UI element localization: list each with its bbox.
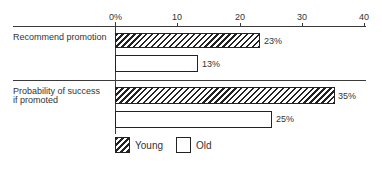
x-axis-line [13, 26, 366, 27]
value-label-old-recommend: 13% [202, 59, 220, 69]
x-tick-10 [177, 23, 178, 27]
x-tick-40 [364, 23, 365, 27]
category-label-probability-success-line2: if promoted [13, 95, 58, 105]
x-tick-label-30: 30 [297, 12, 307, 22]
legend-label-old: Old [196, 141, 212, 151]
bar-young-probability [115, 87, 335, 104]
value-label-young-probability: 35% [338, 91, 356, 101]
x-tick-label-40: 40 [359, 12, 369, 22]
value-label-young-recommend: 23% [264, 36, 282, 46]
plot-bottom-line [115, 133, 275, 134]
legend-swatch-young [115, 137, 130, 153]
x-tick-20 [240, 23, 241, 27]
bar-old-recommend [115, 55, 198, 72]
x-tick-label-20: 20 [235, 12, 245, 22]
legend-swatch-old [176, 137, 191, 153]
x-tick-label-10: 10 [172, 12, 182, 22]
x-tick-30 [302, 23, 303, 27]
bar-young-recommend [115, 33, 260, 48]
group-separator [13, 80, 366, 81]
bar-old-probability [115, 111, 272, 128]
category-label-recommend-promotion: Recommend promotion [13, 32, 107, 42]
value-label-old-probability: 25% [276, 114, 294, 124]
x-tick-label-0: 0% [109, 12, 122, 22]
legend-label-young: Young [135, 141, 163, 151]
